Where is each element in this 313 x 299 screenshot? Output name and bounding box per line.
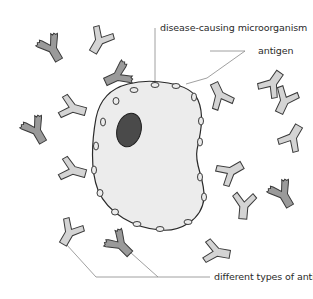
- microorganism: [92, 81, 207, 231]
- antigen-leader: [186, 51, 245, 84]
- label-antibody: different types of antibody: [214, 271, 313, 282]
- antibody-leader: [66, 244, 158, 277]
- label-microorganism: disease-causing microorganism: [160, 22, 307, 33]
- label-antigen: antigen: [258, 45, 293, 56]
